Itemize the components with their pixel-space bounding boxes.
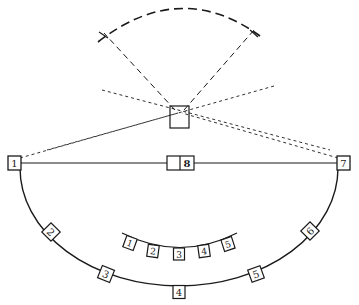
camera-box	[170, 106, 189, 128]
center-box-label: 8	[184, 158, 191, 169]
inner-box-2: 2	[147, 244, 160, 257]
inner-arc	[122, 233, 237, 248]
inner-box-3: 3	[174, 248, 185, 260]
center-box: 8	[167, 156, 194, 170]
outer-arc	[20, 168, 338, 286]
outer-box-label: 4	[176, 287, 182, 298]
stage-diagram: 1 7 8 2 3 4 5 6 1 2 3	[0, 0, 359, 305]
outer-box-6: 6	[301, 222, 319, 240]
end-box-left: 1	[8, 156, 21, 170]
end-box-label: 1	[11, 158, 17, 169]
end-box-right: 7	[337, 156, 350, 170]
sight-line-box7	[182, 113, 338, 158]
end-box-label: 7	[340, 158, 346, 169]
outer-box-2: 2	[42, 223, 60, 241]
inner-box-1: 1	[123, 235, 137, 250]
view-ray-right	[184, 30, 254, 110]
view-arc	[98, 8, 260, 42]
inner-box-5: 5	[221, 237, 235, 252]
inner-box-label: 3	[176, 250, 182, 260]
view-ray-left	[104, 33, 175, 110]
outer-box-3: 3	[98, 266, 115, 283]
view-cone	[98, 8, 260, 110]
inner-box-4: 4	[198, 244, 211, 257]
sight-line-to-left	[102, 90, 330, 150]
outer-box-4: 4	[173, 286, 185, 299]
